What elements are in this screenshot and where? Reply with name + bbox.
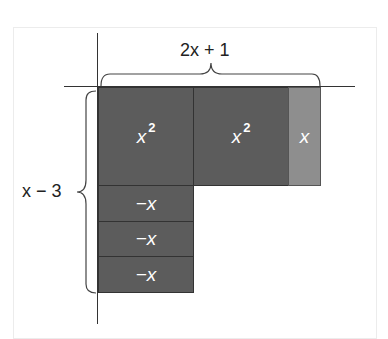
negative-x-tile: −x	[98, 185, 194, 222]
side-dimension-label: x − 3	[22, 181, 62, 202]
x-squared-tile: x2	[98, 87, 194, 186]
tile-label: x	[137, 126, 147, 148]
tile-label: x	[300, 126, 310, 148]
left-brace	[76, 90, 98, 294]
top-dimension-label: 2x + 1	[180, 40, 230, 61]
x-tile: x	[288, 87, 321, 186]
negative-x-tile: −x	[98, 221, 194, 257]
x-squared-tile: x2	[193, 87, 289, 186]
tile-label: x	[232, 126, 242, 148]
tile-exponent: 2	[243, 120, 250, 135]
tile-label: −x	[136, 264, 157, 286]
tile-label: −x	[136, 228, 157, 250]
negative-x-tile: −x	[98, 256, 194, 293]
top-brace	[100, 60, 322, 88]
tile-exponent: 2	[148, 120, 155, 135]
tile-label: −x	[136, 193, 157, 215]
